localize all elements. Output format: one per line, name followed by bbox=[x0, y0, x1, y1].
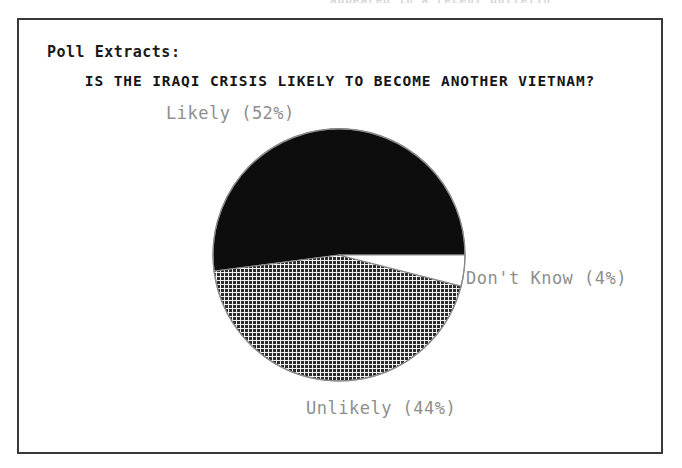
section-heading: Poll Extracts: bbox=[47, 43, 180, 61]
pie-label-likely: Likely (52%) bbox=[166, 103, 295, 123]
poll-extract-frame: Poll Extracts: IS THE IRAQI CRISIS LIKEL… bbox=[17, 18, 663, 454]
pie-label-dont-know: Don't Know (4%) bbox=[466, 268, 627, 288]
pie-label-unlikely: Unlikely (44%) bbox=[306, 398, 456, 418]
cut-off-header-text: appeared in a recent bulletin bbox=[330, 0, 670, 3]
chart-title: IS THE IRAQI CRISIS LIKELY TO BECOME ANO… bbox=[19, 73, 661, 89]
